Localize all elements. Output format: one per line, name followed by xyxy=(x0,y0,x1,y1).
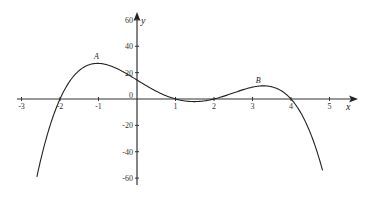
y-tick-label: 20 xyxy=(125,69,133,78)
y-tick-label: 60 xyxy=(125,16,133,25)
y-axis-label: y xyxy=(140,15,146,26)
point-label-a: A xyxy=(93,52,99,61)
point-label-b: B xyxy=(256,76,261,85)
x-tick-label: -2 xyxy=(57,102,64,111)
axes xyxy=(17,12,358,185)
x-tick-label: 2 xyxy=(212,102,216,111)
y-tick-label: -40 xyxy=(122,148,133,157)
x-axis-label: x xyxy=(345,101,351,112)
y-tick-label: 0 xyxy=(129,91,133,100)
y-tick-label: -60 xyxy=(122,174,133,183)
curve xyxy=(37,63,323,176)
x-tick-label: 1 xyxy=(174,102,178,111)
x-tick-label: 4 xyxy=(289,102,293,111)
x-tick-label: 5 xyxy=(328,102,332,111)
y-tick-label: -20 xyxy=(122,121,133,130)
x-tick-label: -3 xyxy=(18,102,25,111)
function-graph: -3-2-1123456040200-20-40-60xyAB xyxy=(0,0,368,200)
x-tick-label: 3 xyxy=(251,102,255,111)
y-tick-label: 40 xyxy=(125,42,133,51)
function-curve xyxy=(37,63,323,176)
x-tick-label: -1 xyxy=(95,102,102,111)
